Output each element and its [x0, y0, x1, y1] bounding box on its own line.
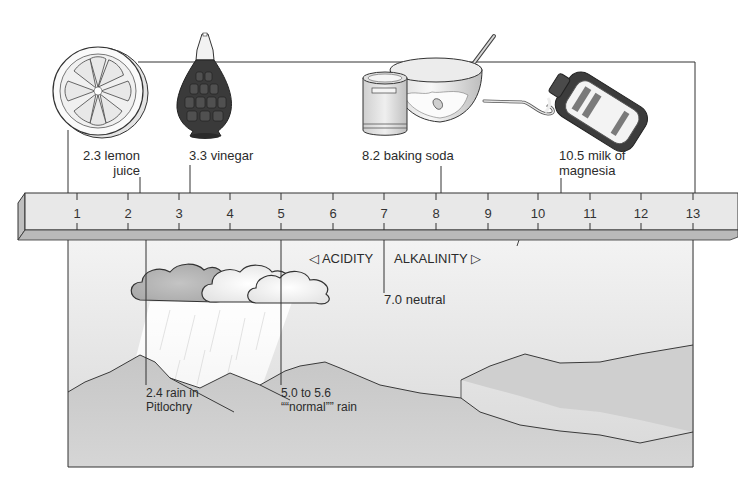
tick-label-8: 8 — [432, 206, 439, 221]
lemon-label: 2.3 lemon juice — [78, 148, 140, 178]
pitlochry-label-line2: Pitlochry — [146, 400, 199, 414]
baking-soda-bowl-icon — [363, 36, 494, 135]
ph-scale-diagram — [0, 0, 738, 497]
alkalinity-label: ALKALINITY ▷ — [394, 251, 481, 266]
magnesia-label-line1: 10.5 milk of — [559, 148, 625, 163]
tick-label-7: 7 — [380, 206, 387, 221]
lemon-label-line1: 2.3 lemon — [78, 148, 140, 163]
normal-rain-label-line2: ““normal”” rain — [281, 400, 357, 414]
tick-label-2: 2 — [124, 206, 131, 221]
acidity-label: ◁ ACIDITY — [309, 251, 373, 266]
pitlochry-label-line1: 2.4 rain in — [146, 386, 199, 400]
tick-label-5: 5 — [277, 206, 284, 221]
lemon-label-line2: juice — [78, 163, 140, 178]
vinegar-label: 3.3 vinegar — [189, 148, 253, 163]
tick-label-1: 1 — [73, 206, 80, 221]
neutral-label: 7.0 neutral — [384, 292, 445, 307]
pitlochry-rain-label: 2.4 rain in Pitlochry — [146, 386, 199, 414]
tick-label-11: 11 — [583, 206, 597, 221]
tick-label-9: 9 — [484, 206, 491, 221]
tick-label-10: 10 — [531, 206, 545, 221]
tick-label-12: 12 — [634, 206, 648, 221]
baking-soda-label: 8.2 baking soda — [362, 148, 454, 163]
tick-label-6: 6 — [329, 206, 336, 221]
tick-label-3: 3 — [175, 206, 182, 221]
vinegar-bottle-icon — [177, 33, 232, 139]
lemon-half-icon — [53, 47, 148, 138]
medicine-bottle-spoon-icon — [484, 61, 653, 157]
tick-label-13: 13 — [686, 206, 700, 221]
magnesia-label-line2: magnesia — [559, 163, 625, 178]
normal-rain-label-line1: 5.0 to 5.6 — [281, 386, 357, 400]
milk-of-magnesia-label: 10.5 milk of magnesia — [559, 148, 625, 178]
normal-rain-label: 5.0 to 5.6 ““normal”” rain — [281, 386, 357, 414]
tick-label-4: 4 — [226, 206, 233, 221]
